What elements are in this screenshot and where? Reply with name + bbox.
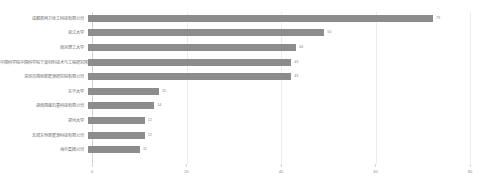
- bar-category-label: 浙江大学: [0, 30, 88, 35]
- bar-value-label: 73: [436, 16, 440, 21]
- bar[interactable]: [88, 44, 296, 51]
- bar-value-label: 12: [148, 118, 152, 123]
- bar-track: 44: [88, 40, 483, 55]
- bar-category-label: 东华大学: [0, 89, 88, 94]
- bar-value-label: 50: [327, 30, 331, 35]
- bar-track: 50: [88, 26, 483, 41]
- x-tick-mark: [186, 164, 187, 167]
- x-tick-label: 0: [91, 169, 93, 175]
- x-axis-tick: 80: [468, 164, 472, 175]
- bar-category-label: 中国科学院中国科学院宁波材料技术与工程研究所: [0, 60, 88, 65]
- bar-category-label: 郑州大学: [0, 118, 88, 123]
- bar-track: 73: [88, 11, 483, 26]
- chart-row: 无锡东恒新能源科技有限公司12: [0, 128, 483, 143]
- bar-track: 11: [88, 142, 483, 157]
- bar-value-label: 14: [157, 103, 161, 108]
- bar-value-label: 43: [294, 60, 298, 65]
- bar[interactable]: [88, 15, 433, 22]
- x-tick-mark: [280, 164, 281, 167]
- bar-track: 15: [88, 84, 483, 99]
- chart-bar-rows: 成都新柯力化工科技有限公司73浙江大学50南京理工大学44中国科学院中国科学院宁…: [0, 11, 483, 157]
- bar-category-label: 海尔集团公司: [0, 147, 88, 152]
- bar-category-label: 湖南国盛石墨科技有限公司: [0, 103, 88, 108]
- bar[interactable]: [88, 88, 159, 95]
- bar-track: 14: [88, 99, 483, 114]
- bar-value-label: 15: [162, 89, 166, 94]
- bar-chart: 成都新柯力化工科技有限公司73浙江大学50南京理工大学44中国科学院中国科学院宁…: [0, 0, 483, 194]
- bar-track: 43: [88, 69, 483, 84]
- x-tick-mark: [91, 164, 92, 167]
- x-axis-tick: 40: [279, 164, 283, 175]
- chart-row: 浙江大学50: [0, 26, 483, 41]
- bar-category-label: 南京理工大学: [0, 45, 88, 50]
- bar[interactable]: [88, 146, 140, 153]
- bar[interactable]: [88, 29, 324, 36]
- bar-category-label: 深圳市国创新能源研究院有限公司: [0, 74, 88, 79]
- chart-row: 成都新柯力化工科技有限公司73: [0, 11, 483, 26]
- chart-row: 深圳市国创新能源研究院有限公司43: [0, 69, 483, 84]
- x-axis-tick: 0: [91, 164, 93, 175]
- x-tick-mark: [469, 164, 470, 167]
- bar-value-label: 12: [148, 133, 152, 138]
- bar[interactable]: [88, 132, 145, 139]
- x-axis: 020406080: [0, 164, 483, 194]
- x-tick-label: 60: [373, 169, 377, 175]
- bar[interactable]: [88, 102, 154, 109]
- bar-track: 43: [88, 55, 483, 70]
- bar-value-label: 44: [299, 45, 303, 50]
- chart-row: 中国科学院中国科学院宁波材料技术与工程研究所43: [0, 55, 483, 70]
- bar[interactable]: [88, 59, 291, 66]
- x-tick-label: 40: [279, 169, 283, 175]
- chart-row: 湖南国盛石墨科技有限公司14: [0, 99, 483, 114]
- bar-value-label: 43: [294, 74, 298, 79]
- x-tick-label: 80: [468, 169, 472, 175]
- chart-row: 东华大学15: [0, 84, 483, 99]
- chart-row: 海尔集团公司11: [0, 142, 483, 157]
- bar[interactable]: [88, 117, 145, 124]
- x-tick-mark: [375, 164, 376, 167]
- bar-category-label: 成都新柯力化工科技有限公司: [0, 16, 88, 21]
- bar[interactable]: [88, 73, 291, 80]
- bar-value-label: 11: [143, 147, 147, 152]
- x-tick-label: 20: [184, 169, 188, 175]
- bar-category-label: 无锡东恒新能源科技有限公司: [0, 133, 88, 138]
- bar-track: 12: [88, 113, 483, 128]
- chart-row: 郑州大学12: [0, 113, 483, 128]
- chart-row: 南京理工大学44: [0, 40, 483, 55]
- bar-track: 12: [88, 128, 483, 143]
- x-axis-tick: 20: [184, 164, 188, 175]
- x-axis-tick: 60: [373, 164, 377, 175]
